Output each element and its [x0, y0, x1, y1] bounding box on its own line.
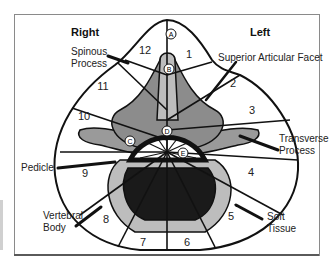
sector-8: 8 [103, 213, 109, 225]
label-transverse-process: Transverse Process [279, 133, 329, 157]
label-transverse-line2: Process [279, 145, 329, 157]
svg-text:C: C [127, 138, 132, 145]
label-soft-line2: Tissue [267, 223, 296, 235]
point-marker-c: C [125, 136, 135, 146]
sector-11: 11 [97, 80, 108, 92]
point-marker-e: E [178, 148, 188, 158]
sector-5: 5 [228, 210, 234, 222]
label-soft-line1: Soft [267, 211, 296, 223]
label-vertebral-body: Vertebral Body [43, 210, 83, 234]
svg-text:E: E [181, 150, 186, 157]
sector-12: 12 [139, 44, 151, 56]
label-superior-articular-facet: Superior Articular Facet [218, 52, 323, 64]
label-vertebral-line1: Vertebral [43, 210, 83, 222]
svg-text:D: D [164, 128, 169, 135]
side-label-right: Right [71, 26, 99, 38]
point-marker-a: A [166, 29, 176, 39]
svg-text:A: A [169, 31, 174, 38]
point-marker-d: D [162, 126, 172, 136]
sector-3: 3 [249, 104, 255, 116]
sector-7: 7 [140, 236, 146, 248]
sector-10: 10 [78, 110, 90, 122]
sector-9: 9 [82, 167, 88, 179]
label-pedicle: Pedicle [21, 162, 54, 174]
sector-6: 6 [184, 236, 190, 248]
svg-text:B: B [167, 66, 172, 73]
vertebral-body-shape [123, 168, 215, 220]
label-spinous-line2: Process [71, 58, 107, 70]
sector-2: 2 [230, 77, 236, 89]
side-label-left: Left [250, 26, 270, 38]
label-soft-tissue: Soft Tissue [267, 211, 296, 235]
label-spinous-line1: Spinous [71, 46, 107, 58]
point-marker-b: B [164, 64, 174, 74]
sector-4: 4 [248, 166, 254, 178]
sector-1: 1 [186, 48, 192, 60]
label-transverse-line1: Transverse [279, 133, 329, 145]
label-vertebral-line2: Body [43, 222, 83, 234]
label-spinous-process: Spinous Process [71, 46, 107, 70]
